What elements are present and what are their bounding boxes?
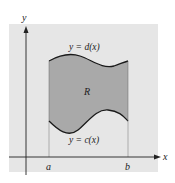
x-axis-label: x (162, 151, 168, 162)
region-diagram: y x a b y = d(x) y = c(x) R (0, 0, 175, 183)
bound-b-label: b (125, 161, 130, 172)
upper-curve-label: y = d(x) (68, 42, 100, 53)
y-axis-label: y (21, 12, 27, 23)
lower-curve-label: y = c(x) (68, 135, 99, 146)
bound-a-label: a (46, 161, 51, 172)
region-label: R (83, 86, 90, 97)
